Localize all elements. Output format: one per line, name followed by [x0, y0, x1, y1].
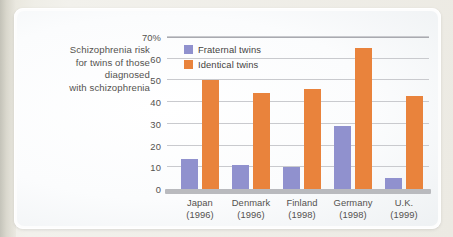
- figure-root: Schizophrenia risk for twins of those di…: [0, 0, 453, 237]
- legend-item-fraternal: Fraternal twins: [184, 43, 261, 56]
- bar-identical[interactable]: [304, 89, 321, 189]
- bar-fraternal[interactable]: [232, 165, 249, 189]
- bar-fraternal[interactable]: [334, 126, 351, 189]
- y-axis-tick-label: 60: [150, 53, 161, 64]
- figure-card: Schizophrenia risk for twins of those di…: [14, 8, 441, 229]
- legend-swatch-identical-icon: [184, 60, 193, 69]
- y-axis-tick-label: 50: [150, 75, 161, 86]
- caption-line-2: for twins of those: [26, 57, 150, 70]
- bar-identical[interactable]: [253, 93, 270, 189]
- bar-identical[interactable]: [355, 48, 372, 189]
- caption-line-3: diagnosed: [26, 69, 150, 82]
- chart-caption: Schizophrenia risk for twins of those di…: [26, 44, 150, 94]
- y-axis-tick-label: 10: [150, 162, 161, 173]
- y-axis-tick-label: 30: [150, 118, 161, 129]
- legend-label-identical: Identical twins: [198, 59, 258, 70]
- x-axis-label-year: (1999): [368, 209, 440, 221]
- bar-group: [330, 37, 376, 189]
- caption-line-1: Schizophrenia risk: [26, 44, 150, 57]
- bar-identical[interactable]: [202, 80, 219, 189]
- plot-area: 010203040506070% Japan(1996)Denmark(1996…: [167, 37, 429, 189]
- x-axis-baseline: [165, 189, 431, 194]
- bar-fraternal[interactable]: [181, 159, 198, 189]
- legend-swatch-fraternal-icon: [184, 45, 193, 54]
- y-axis-tick-label: 70%: [142, 32, 161, 43]
- legend-item-identical: Identical twins: [184, 58, 261, 71]
- x-axis-label-country: U.K.: [368, 197, 440, 209]
- y-axis-tick-label: 40: [150, 97, 161, 108]
- y-axis-tick-label: 20: [150, 140, 161, 151]
- bar-group: [381, 37, 427, 189]
- bar-group: [279, 37, 325, 189]
- bar-fraternal[interactable]: [283, 167, 300, 189]
- chart-legend: Fraternal twins Identical twins: [184, 43, 261, 73]
- legend-label-fraternal: Fraternal twins: [198, 44, 261, 55]
- bar-fraternal[interactable]: [385, 178, 402, 189]
- x-axis-label: U.K.(1999): [368, 197, 440, 220]
- caption-line-4: with schizophrenia: [26, 82, 150, 95]
- y-axis-tick-label: 0: [156, 184, 161, 195]
- bar-identical[interactable]: [406, 96, 423, 189]
